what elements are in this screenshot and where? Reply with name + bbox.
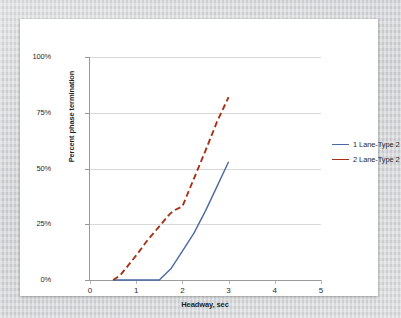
y-tick-label: 25% <box>11 219 51 228</box>
y-tick-label: 50% <box>11 164 51 173</box>
chart-legend: 1 Lane-Type 2 2 Lane-Type 2 <box>332 137 401 167</box>
y-tick-label: 100% <box>11 52 51 61</box>
legend-swatch-series-2 <box>332 159 349 160</box>
series-line-2 <box>113 97 229 280</box>
series-layer <box>49 32 369 284</box>
series-line-1 <box>113 162 229 280</box>
legend-label-series-1: 1 Lane-Type 2 <box>353 140 400 149</box>
chart-plot-area: 0%25%50%75%100% 012345 Percent phase ter… <box>49 32 369 284</box>
x-tick-label: 5 <box>311 286 331 295</box>
x-tick-label: 2 <box>172 286 192 295</box>
x-tick-label: 0 <box>80 286 100 295</box>
y-tick-label: 75% <box>11 108 51 117</box>
x-axis-title: Headway, sec <box>89 300 321 309</box>
x-tick-label: 4 <box>265 286 285 295</box>
legend-label-series-2: 2 Lane-Type 2 <box>353 155 400 164</box>
x-tick-label: 3 <box>219 286 239 295</box>
chart-card: 0%25%50%75%100% 012345 Percent phase ter… <box>20 19 378 296</box>
legend-item-2-lane-type-2[interactable]: 2 Lane-Type 2 <box>332 152 401 167</box>
y-tick-label: 0% <box>11 275 51 284</box>
y-axis-title: Percent phase termination <box>67 57 76 177</box>
x-tick-label: 1 <box>126 286 146 295</box>
legend-swatch-series-1 <box>332 144 349 145</box>
legend-item-1-lane-type-2[interactable]: 1 Lane-Type 2 <box>332 137 401 152</box>
